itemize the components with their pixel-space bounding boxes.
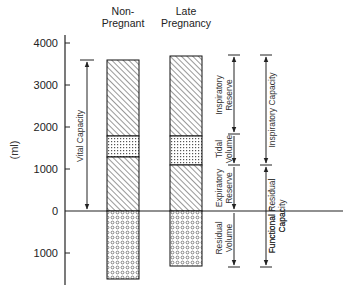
- bar-late-pregnancy: [170, 56, 202, 266]
- residual-volume-label: Residual: [214, 221, 224, 254]
- svg-text:Capacity: Capacity: [277, 199, 287, 233]
- inspiratory-reserve-label: Inspiratory: [214, 74, 224, 114]
- vital-capacity-arrow: Vital Capacity: [75, 60, 94, 209]
- tidal-volume-label: Tidal: [214, 140, 224, 158]
- segment-arrows: Inspiratory Reserve Tidal Volume Expirat…: [214, 55, 240, 267]
- svg-text:Non-: Non-: [112, 5, 135, 17]
- column-header-non-pregnant: Non- Pregnant: [102, 5, 145, 29]
- lung-volumes-diagram: Non- Pregnant Late Pregnancy 4000 3000 2…: [0, 0, 343, 287]
- y-axis-label: (ml): [8, 141, 20, 160]
- svg-text:Volume: Volume: [224, 224, 234, 253]
- svg-text:Late: Late: [176, 5, 197, 17]
- y-tick-4000: 4000: [34, 37, 58, 49]
- inspiratory-capacity-label: Inspiratory Capacity: [267, 72, 277, 148]
- y-tick-3000: 3000: [34, 79, 58, 91]
- bar-non-pregnant: [107, 60, 139, 279]
- svg-text:Pregnancy: Pregnancy: [161, 17, 212, 29]
- y-tick-neg-1000: 1000: [34, 247, 58, 259]
- y-tick-1000: 1000: [34, 163, 58, 175]
- y-axis: 4000 3000 2000 1000 0 1000 (ml): [8, 35, 70, 285]
- svg-text:Reserve: Reserve: [224, 79, 234, 111]
- svg-text:Volume: Volume: [224, 135, 234, 164]
- svg-text:Pregnant: Pregnant: [102, 17, 145, 29]
- svg-text:Reserve: Reserve: [224, 172, 234, 204]
- vital-capacity-label: Vital Capacity: [75, 109, 85, 162]
- y-tick-2000: 2000: [34, 121, 58, 133]
- expiratory-reserve-label: Expiratory: [214, 168, 224, 207]
- column-header-late-pregnancy: Late Pregnancy: [161, 5, 212, 29]
- y-tick-0: 0: [52, 205, 58, 217]
- svg-text:Functional Residual: Functional Residual: [267, 179, 277, 254]
